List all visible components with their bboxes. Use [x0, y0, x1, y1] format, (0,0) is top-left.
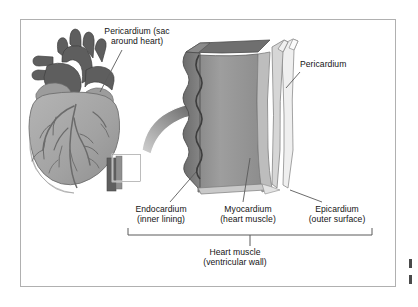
heart-wall-cross-section-block	[183, 39, 298, 194]
label-epicardium: Epicardium (outer surface)	[292, 204, 382, 225]
label-heart-muscle: Heart muscle (ventricular wall)	[180, 247, 290, 268]
heart-wall-figure: Pericardium (sac around heart) Pericardi…	[0, 0, 418, 307]
epicardium-inner-band	[257, 52, 272, 192]
page-edge-mark-bottom	[409, 275, 412, 284]
label-myocardium: Myocardium (heart muscle)	[206, 204, 290, 225]
label-pericardium: Pericardium	[300, 59, 386, 69]
anterior-heart-illustration	[29, 29, 141, 193]
page-edge-mark-top	[409, 259, 412, 268]
leader-endocardium	[170, 172, 196, 202]
heart-muscle-span-bracket	[128, 228, 372, 246]
sampled-wall-strip	[107, 156, 122, 191]
myocardium-layer	[198, 54, 262, 192]
label-pericardium-sac: Pericardium (sac around heart)	[73, 26, 201, 47]
label-endocardium: Endocardium (inner lining)	[118, 204, 204, 225]
leader-epicardium	[290, 190, 322, 202]
pericardium-layer	[281, 39, 298, 188]
